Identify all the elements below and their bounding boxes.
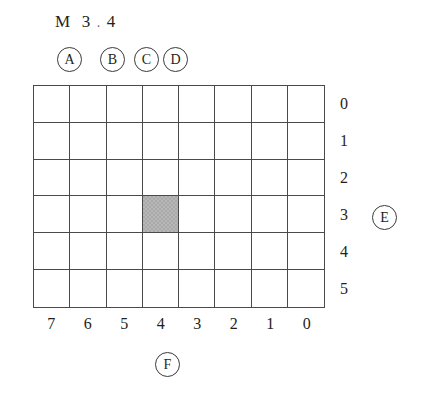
grid-cell[interactable] xyxy=(215,270,251,307)
column-label: 1 xyxy=(252,311,289,337)
grid-cell[interactable] xyxy=(107,160,143,197)
grid-cell-shaded[interactable] xyxy=(143,196,179,233)
grid-cell[interactable] xyxy=(179,160,215,197)
callout-marker-a[interactable]: A xyxy=(57,47,82,72)
grid-cell[interactable] xyxy=(288,160,324,197)
grid-cell[interactable] xyxy=(70,233,106,270)
grid-cell[interactable] xyxy=(34,233,70,270)
column-label: 0 xyxy=(289,311,326,337)
callout-label-d: D xyxy=(170,53,180,67)
grid-cell[interactable] xyxy=(107,196,143,233)
figure-caption: M3.4 xyxy=(55,12,116,32)
grid-cell[interactable] xyxy=(34,160,70,197)
grid-cell[interactable] xyxy=(215,123,251,160)
column-label: 2 xyxy=(216,311,253,337)
grid-cell[interactable] xyxy=(143,270,179,307)
grid-cell[interactable] xyxy=(34,123,70,160)
grid-cell[interactable] xyxy=(34,86,70,123)
grid-cell[interactable] xyxy=(252,123,288,160)
grid-cell[interactable] xyxy=(143,160,179,197)
callout-label-a: A xyxy=(64,53,74,67)
grid-cell[interactable] xyxy=(143,86,179,123)
grid-cell[interactable] xyxy=(70,160,106,197)
grid-cell[interactable] xyxy=(288,233,324,270)
grid-cell[interactable] xyxy=(34,196,70,233)
grid-cell[interactable] xyxy=(252,160,288,197)
caption-prefix: M xyxy=(55,12,71,31)
grid-cell[interactable] xyxy=(215,86,251,123)
column-label: 3 xyxy=(179,311,216,337)
callout-marker-d[interactable]: D xyxy=(163,47,188,72)
row-label: 0 xyxy=(333,85,355,122)
grid-cell[interactable] xyxy=(70,270,106,307)
grid-cell[interactable] xyxy=(107,270,143,307)
row-label: 4 xyxy=(333,234,355,271)
grid-cell[interactable] xyxy=(288,86,324,123)
callout-marker-b[interactable]: B xyxy=(100,47,125,72)
grid-cell[interactable] xyxy=(107,233,143,270)
grid-cell[interactable] xyxy=(70,123,106,160)
grid-cell[interactable] xyxy=(179,270,215,307)
grid-cell[interactable] xyxy=(143,123,179,160)
grid-cell[interactable] xyxy=(288,270,324,307)
row-label: 2 xyxy=(333,159,355,196)
column-label: 7 xyxy=(33,311,70,337)
caption-major-number: 3 xyxy=(82,12,91,31)
callout-label-e: E xyxy=(380,211,389,225)
grid-cell[interactable] xyxy=(179,196,215,233)
row-label: 5 xyxy=(333,271,355,308)
grid-cell[interactable] xyxy=(107,123,143,160)
row-label: 3 xyxy=(333,197,355,234)
grid-cell[interactable] xyxy=(143,233,179,270)
grid-cell[interactable] xyxy=(215,233,251,270)
grid-cell[interactable] xyxy=(288,123,324,160)
grid-cell[interactable] xyxy=(215,160,251,197)
grid-cell[interactable] xyxy=(252,196,288,233)
grid-cell[interactable] xyxy=(252,233,288,270)
row-label: 1 xyxy=(333,122,355,159)
grid-cell[interactable] xyxy=(288,196,324,233)
grid-cell[interactable] xyxy=(215,196,251,233)
callout-marker-c[interactable]: C xyxy=(134,47,159,72)
grid-cell[interactable] xyxy=(70,86,106,123)
row-label-axis: 012345 xyxy=(333,85,355,308)
grid-cell[interactable] xyxy=(179,233,215,270)
grid-cell[interactable] xyxy=(179,123,215,160)
grid-cell[interactable] xyxy=(34,270,70,307)
grid-cell[interactable] xyxy=(70,196,106,233)
callout-marker-f[interactable]: F xyxy=(155,352,180,377)
coordinate-grid[interactable] xyxy=(33,85,325,308)
column-label: 6 xyxy=(70,311,107,337)
column-label: 4 xyxy=(143,311,180,337)
grid-cell[interactable] xyxy=(252,270,288,307)
grid-cell[interactable] xyxy=(107,86,143,123)
figure-container: M3.4 A B C D E F 012345 76543210 xyxy=(0,0,428,405)
grid-cell[interactable] xyxy=(179,86,215,123)
callout-label-f: F xyxy=(164,358,172,372)
callout-marker-e[interactable]: E xyxy=(372,205,397,230)
callout-label-b: B xyxy=(108,53,117,67)
column-label: 5 xyxy=(106,311,143,337)
callout-label-c: C xyxy=(142,53,151,67)
caption-minor-number: 4 xyxy=(107,12,116,31)
column-label-axis: 76543210 xyxy=(33,311,325,337)
caption-separator: . xyxy=(91,15,107,31)
grid-cell[interactable] xyxy=(252,86,288,123)
